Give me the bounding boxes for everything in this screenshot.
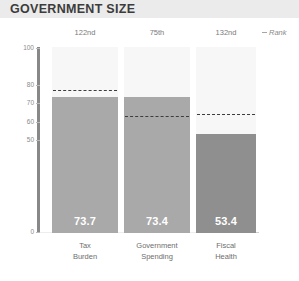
bar-column-government-spending[interactable]: 73.4: [124, 47, 190, 233]
category-label-tax-burden: Tax Burden: [46, 241, 124, 262]
y-tick-80: 80: [12, 80, 40, 90]
bar-column-fiscal-health[interactable]: 53.4: [196, 47, 256, 233]
y-tick-mark: [36, 103, 40, 104]
bar-government-spending[interactable]: 73.4: [124, 97, 190, 233]
left-arrow-icon: [262, 32, 267, 33]
rank-label-government-spending: 75th: [124, 28, 190, 37]
rank-annotation: Rank: [262, 28, 287, 37]
y-tick-mark: [36, 48, 40, 49]
y-tick-label: 60: [27, 117, 34, 127]
reference-line-fiscal-health: [197, 114, 255, 115]
y-tick-50: 50: [12, 135, 40, 145]
bar-column-tax-burden[interactable]: 73.7: [52, 47, 118, 233]
y-tick-mark: [36, 122, 40, 123]
bar-value-label: 53.4: [196, 215, 256, 227]
category-label-line: Tax: [46, 241, 124, 252]
rank-label-tax-burden: 122nd: [52, 28, 118, 37]
reference-line-tax-burden: [53, 90, 117, 91]
y-tick-label: 100: [23, 43, 34, 53]
y-tick-60: 60: [12, 117, 40, 127]
rank-label-fiscal-health: 132nd: [196, 28, 256, 37]
y-tick-label: 70: [27, 98, 34, 108]
category-label-line: Fiscal: [190, 241, 262, 252]
y-tick-label: 80: [27, 80, 34, 90]
y-tick-0: 0: [12, 227, 40, 237]
y-tick-70: 70: [12, 98, 40, 108]
category-label-line: Spending: [116, 252, 198, 263]
y-tick-100: 100: [12, 43, 40, 53]
category-label-line: Health: [190, 252, 262, 263]
y-tick-label: 50: [27, 135, 34, 145]
bar-value-label: 73.4: [124, 215, 190, 227]
bar-chart: 100 80 70 60 50 0 73.7 122nd Tax Burden: [0, 0, 299, 281]
rank-annotation-label: Rank: [269, 28, 287, 37]
bar-fiscal-health[interactable]: 53.4: [196, 134, 256, 233]
bar-value-label: 73.7: [52, 215, 118, 227]
category-label-line: Government: [116, 241, 198, 252]
bar-tax-burden[interactable]: 73.7: [52, 97, 118, 233]
category-label-government-spending: Government Spending: [116, 241, 198, 262]
y-tick-mark: [36, 140, 40, 141]
y-tick-label: 0: [30, 227, 34, 237]
y-tick-mark: [36, 85, 40, 86]
category-label-line: Burden: [46, 252, 124, 263]
category-label-fiscal-health: Fiscal Health: [190, 241, 262, 262]
reference-line-government-spending: [125, 116, 189, 117]
